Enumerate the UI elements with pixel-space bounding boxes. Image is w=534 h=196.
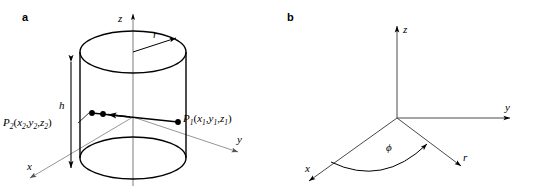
angle-arc-phi [331,144,427,171]
angle-label-phi: ϕ [386,142,392,153]
panel-a: a [0,0,267,196]
axis-label-z-b: z [403,24,407,35]
axis-label-y-a: y [237,134,242,145]
height-label-a: h [59,100,65,111]
radius-label-a: r [153,29,157,40]
figure-container: a [0,0,534,196]
axis-label-y-b: y [505,102,510,113]
axis-label-x-a: x [27,161,32,172]
panel-b: b z x [267,0,534,196]
panel-a-drawing [0,0,267,196]
radius-indicator-a [133,38,176,52]
point-p2-marker-inner [100,111,106,117]
point-p1-label: P1(x1,y1,z1) [183,113,232,127]
chord-p1-p2 [89,110,181,125]
point-p1-marker [175,119,181,125]
axis-label-z-a: z [118,13,122,24]
radial-label-b: r [463,152,467,163]
axis-label-x-b: x [305,163,310,174]
point-p2-marker [89,110,95,116]
point-p2-label: P2(x2,y2,z2) [3,117,52,131]
